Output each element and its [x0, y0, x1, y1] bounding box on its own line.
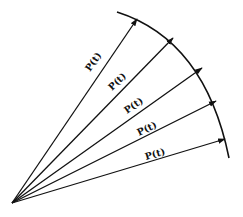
vector-label: P(t)	[122, 95, 145, 116]
vector-arrow	[12, 68, 202, 203]
vector-1: P(t)	[12, 19, 137, 203]
vector-arrow	[12, 19, 137, 203]
vector-3: P(t)	[12, 68, 202, 203]
vector-label: P(t)	[144, 146, 167, 162]
vector-label: P(t)	[106, 70, 128, 92]
vector-4: P(t)	[12, 101, 216, 203]
curve-arc	[117, 12, 229, 158]
vector-arrow	[12, 101, 216, 203]
position-vector-diagram: P(t) P(t) P(t) P(t) P(t)	[0, 0, 243, 217]
vector-label: P(t)	[83, 50, 104, 73]
